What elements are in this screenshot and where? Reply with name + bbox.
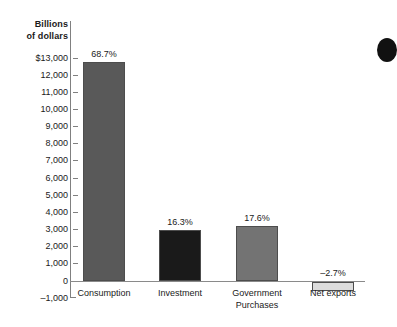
y-tick-label: 9,000 [45, 121, 68, 132]
y-tick-mark [73, 212, 78, 213]
y-tick-7: 6,000 [0, 173, 78, 184]
y-tick-label: 1,000 [45, 258, 68, 269]
y-tick-8: 5,000 [0, 190, 78, 201]
y-tick-label: 8,000 [45, 138, 68, 149]
y-tick-mark [73, 92, 78, 93]
y-tick-mark [73, 246, 78, 247]
page-corner-dot-icon [377, 38, 397, 62]
y-tick-mark [73, 160, 78, 161]
y-axis-title-line-2: of dollars [6, 31, 68, 43]
y-tick-mark [73, 75, 78, 76]
y-tick-13: 0 [0, 276, 78, 287]
bar-consumption [83, 62, 125, 281]
y-tick-mark [73, 109, 78, 110]
y-tick-label: 11,000 [41, 87, 68, 98]
x-axis-label-line: Net exports [290, 288, 376, 300]
bar-investment [159, 230, 201, 281]
y-tick-label: 7,000 [45, 155, 68, 166]
x-axis-label-investment: Investment [137, 288, 223, 300]
y-tick-5: 8,000 [0, 138, 78, 149]
y-tick-label: 10,000 [40, 104, 68, 115]
bar-value-label: 68.7% [61, 49, 147, 60]
y-tick-mark [73, 263, 78, 264]
x-axis-label-government-purchases: GovernmentPurchases [214, 288, 300, 311]
y-tick-2: 11,000 [0, 87, 78, 98]
x-axis-label-line: Consumption [61, 288, 147, 300]
y-tick-mark [73, 178, 78, 179]
y-tick-label: 0 [63, 276, 68, 287]
y-tick-11: 2,000 [0, 241, 78, 252]
y-tick-4: 9,000 [0, 121, 78, 132]
x-axis-label-line: Purchases [214, 300, 300, 312]
bar-value-label: 17.6% [214, 213, 300, 224]
x-axis-label-consumption: Consumption [61, 288, 147, 300]
y-tick-label: 4,000 [45, 207, 68, 218]
y-axis-title-line-1: Billions [6, 19, 68, 31]
x-axis-label-line: Government [214, 288, 300, 300]
x-axis-label-line: Investment [137, 288, 223, 300]
x-axis-label-net-exports: Net exports [290, 288, 376, 300]
y-tick-10: 3,000 [0, 224, 78, 235]
y-tick-6: 7,000 [0, 155, 78, 166]
y-tick-9: 4,000 [0, 207, 78, 218]
y-tick-mark [73, 281, 78, 282]
bar-value-label: –2.7% [290, 268, 376, 279]
y-tick-12: 1,000 [0, 258, 78, 269]
y-tick-label: 2,000 [45, 241, 68, 252]
y-tick-label: 3,000 [45, 224, 68, 235]
y-tick-1: 12,000 [0, 70, 78, 81]
y-tick-mark [73, 126, 78, 127]
y-tick-label: 12,000 [40, 70, 68, 81]
y-tick-mark [73, 229, 78, 230]
bar-value-label: 16.3% [137, 217, 223, 228]
y-tick-label: 6,000 [45, 173, 68, 184]
y-tick-3: 10,000 [0, 104, 78, 115]
y-axis-title: Billions of dollars [6, 19, 68, 42]
bar-government-purchases [236, 226, 278, 281]
y-tick-mark [73, 195, 78, 196]
y-tick-label: 5,000 [45, 190, 68, 201]
y-tick-mark [73, 143, 78, 144]
